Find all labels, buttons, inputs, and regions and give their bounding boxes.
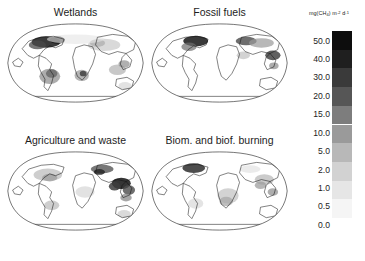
colorbar-tick-label: 1.0 — [318, 184, 330, 193]
panel-agriculture-waste: Agriculture and waste — [4, 134, 147, 254]
panel-wetlands: Wetlands — [4, 6, 147, 126]
colorbar-tick-label: 50.0 — [313, 37, 330, 46]
panel-title-fossil-fuels: Fossil fuels — [148, 6, 291, 18]
unit-mid: ) m — [329, 10, 337, 16]
map-agriculture-waste — [4, 148, 147, 234]
colorbar-segment — [332, 50, 352, 69]
colorbar-unit-label: mg(CH4) m-2 d-1 — [299, 10, 359, 17]
colorbar-segment — [332, 199, 352, 218]
map-fossil-fuels — [148, 20, 291, 106]
colorbar-tick-label: 30.0 — [313, 73, 330, 82]
colorbar-segment — [332, 181, 352, 200]
map-wetlands — [4, 20, 147, 106]
map-biomass-biofuel-burning — [148, 148, 291, 234]
colorbar-segment — [332, 68, 352, 87]
colorbar-segment — [332, 31, 352, 50]
colorbar-segment — [332, 143, 352, 162]
colorbar-tick-label: 20.0 — [313, 92, 330, 101]
colorbar-segment — [332, 87, 352, 106]
colorbar-tick-label: 0.5 — [318, 202, 330, 211]
panel-fossil-fuels: Fossil fuels — [148, 6, 291, 126]
colorbar-tick-label: 5.0 — [318, 147, 330, 156]
panel-biomass-biofuel-burning: Biom. and biof. burning — [148, 134, 291, 254]
colorbar-tick-label: 40.0 — [313, 55, 330, 64]
colorbar-gradient-strip — [332, 31, 352, 218]
colorbar-segment — [332, 125, 352, 144]
panel-title-agriculture-waste: Agriculture and waste — [4, 134, 147, 146]
colorbar: mg(CH4) m-2 d-1 50.0 40.0 30.0 20.0 15.0… — [299, 10, 365, 225]
colorbar-tick-label: 2.0 — [318, 166, 330, 175]
panel-title-biomass-biofuel-burning: Biom. and biof. burning — [148, 134, 291, 146]
unit-superscript-2: -1 — [345, 10, 349, 15]
colorbar-segment — [332, 106, 352, 125]
methane-emission-map-figure: Wetlands — [0, 0, 365, 261]
colorbar-tick-label: 0.0 — [318, 221, 330, 230]
colorbar-tick-label: 15.0 — [313, 110, 330, 119]
colorbar-tick-label: 10.0 — [313, 129, 330, 138]
panel-title-wetlands: Wetlands — [4, 6, 147, 18]
unit-prefix: mg(CH — [309, 10, 327, 16]
colorbar-segment — [332, 162, 352, 181]
